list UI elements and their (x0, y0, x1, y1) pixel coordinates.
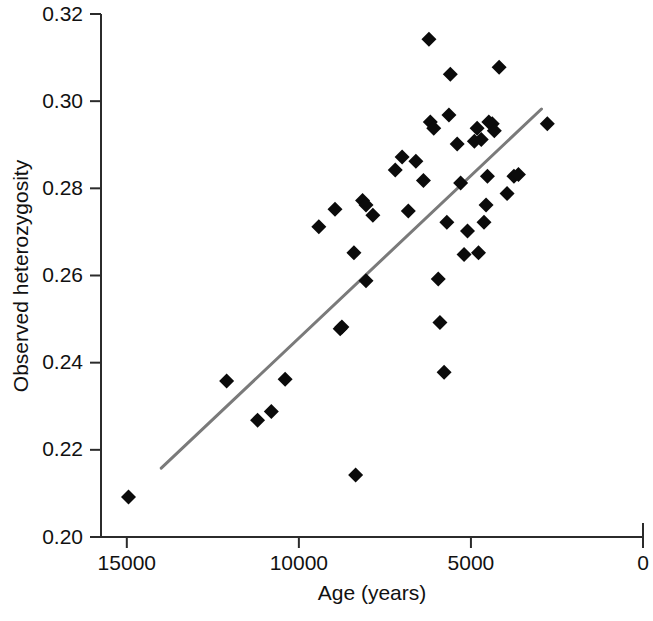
x-tick-label: 0 (637, 551, 649, 574)
data-point-marker (471, 245, 486, 260)
regression-line (161, 109, 541, 468)
data-point-marker (450, 136, 465, 151)
y-tick-label: 0.26 (42, 263, 83, 286)
y-tick-label: 0.30 (42, 89, 83, 112)
y-tick-label: 0.22 (42, 437, 83, 460)
data-point-marker (250, 413, 265, 428)
data-point-marker (408, 154, 423, 169)
data-point-marker (432, 315, 447, 330)
data-point-marker (278, 372, 293, 387)
data-point-marker (443, 67, 458, 82)
data-point-marker (421, 32, 436, 47)
x-tick-label: 15000 (98, 551, 156, 574)
y-tick-label: 0.24 (42, 350, 83, 373)
data-point-marker (492, 60, 507, 75)
data-point-marker (219, 373, 234, 388)
x-tick-label: 10000 (270, 551, 328, 574)
data-point-marker (457, 247, 472, 262)
data-point-marker (401, 203, 416, 218)
data-point-marker (479, 197, 494, 212)
data-point-marker (439, 215, 454, 230)
data-point-marker (395, 149, 410, 164)
data-point-marker (346, 245, 361, 260)
data-point-marker (441, 108, 456, 123)
data-point-marker (480, 169, 495, 184)
data-points (121, 32, 555, 505)
data-point-marker (121, 489, 136, 504)
y-tick-label: 0.20 (42, 525, 83, 548)
data-point-marker (358, 273, 373, 288)
data-point-marker (437, 365, 452, 380)
data-point-marker (311, 219, 326, 234)
data-point-marker (348, 468, 363, 483)
y-tick-label: 0.32 (42, 2, 83, 25)
y-axis-ticks: 0.200.220.240.260.280.300.32 (42, 2, 101, 548)
data-point-marker (416, 173, 431, 188)
data-point-marker (460, 224, 475, 239)
data-point-marker (477, 215, 492, 230)
y-axis-title: Observed heterozygosity (9, 159, 32, 392)
data-point-marker (264, 404, 279, 419)
x-tick-label: 5000 (448, 551, 495, 574)
data-point-marker (388, 163, 403, 178)
data-point-marker (431, 271, 446, 286)
data-point-marker (328, 202, 343, 217)
x-axis-ticks: 150001000050000 (98, 537, 649, 574)
x-axis-title: Age (years) (318, 581, 427, 604)
data-point-marker (500, 186, 515, 201)
y-tick-label: 0.28 (42, 176, 83, 199)
plot-canvas: 0.200.220.240.260.280.300.32 15000100005… (0, 0, 653, 621)
data-point-marker (540, 116, 555, 131)
scatter-plot-figure: 0.200.220.240.260.280.300.32 15000100005… (0, 0, 653, 621)
